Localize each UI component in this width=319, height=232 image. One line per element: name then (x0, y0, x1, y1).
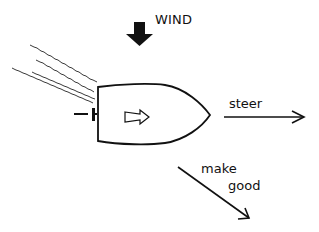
steer-arrow-icon (224, 111, 304, 123)
steer-label: steer (229, 97, 262, 110)
make-good-label-line2: good (228, 179, 260, 192)
make-good-label-line1: make (201, 162, 237, 175)
heading-arrow-icon (125, 110, 149, 124)
rudder-icon (74, 108, 97, 121)
boat-hull-icon (98, 84, 210, 144)
diagram-canvas: WIND steer make good (0, 0, 319, 232)
wind-label: WIND (155, 13, 192, 26)
wind-arrow-icon (126, 22, 153, 46)
wake-lines-icon (12, 45, 97, 103)
